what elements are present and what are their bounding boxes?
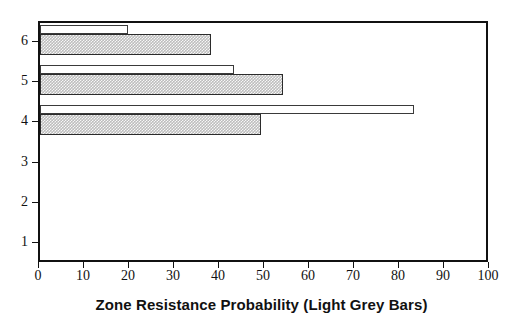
- plot-area: [38, 21, 488, 262]
- y-tick-label-6: 6: [8, 33, 28, 49]
- y-tick-label-4: 4: [8, 113, 28, 129]
- y-tick-3: [32, 162, 38, 163]
- y-tick-1: [32, 242, 38, 243]
- x-tick-label-70: 70: [346, 268, 360, 284]
- x-tick-label-50: 50: [256, 268, 270, 284]
- y-tick-6: [32, 41, 38, 42]
- y-tick-4: [32, 121, 38, 122]
- y-tick-label-5: 5: [8, 73, 28, 89]
- y-tick-2: [32, 202, 38, 203]
- x-tick-label-0: 0: [35, 268, 42, 284]
- bar-grey-zone-5: [40, 74, 283, 95]
- x-tick-label-40: 40: [211, 268, 225, 284]
- x-tick-label-10: 10: [76, 268, 90, 284]
- y-tick-label-1: 1: [8, 234, 28, 250]
- y-tick-label-3: 3: [8, 154, 28, 170]
- x-axis-title: Zone Resistance Probability (Light Grey …: [0, 296, 523, 313]
- bar-grey-zone-6: [40, 34, 211, 55]
- bar-white-zone-4: [40, 105, 414, 114]
- x-tick-label-80: 80: [391, 268, 405, 284]
- y-tick-label-2: 2: [8, 194, 28, 210]
- x-tick-label-20: 20: [121, 268, 135, 284]
- bar-white-zone-6: [40, 25, 128, 34]
- bar-grey-zone-4: [40, 114, 261, 135]
- x-tick-label-30: 30: [166, 268, 180, 284]
- x-tick-label-90: 90: [436, 268, 450, 284]
- y-tick-5: [32, 81, 38, 82]
- bar-chart: 0102030405060708090100 123456 Zone Resis…: [0, 0, 523, 328]
- x-tick-label-60: 60: [301, 268, 315, 284]
- x-tick-label-100: 100: [478, 268, 499, 284]
- bar-white-zone-5: [40, 65, 234, 74]
